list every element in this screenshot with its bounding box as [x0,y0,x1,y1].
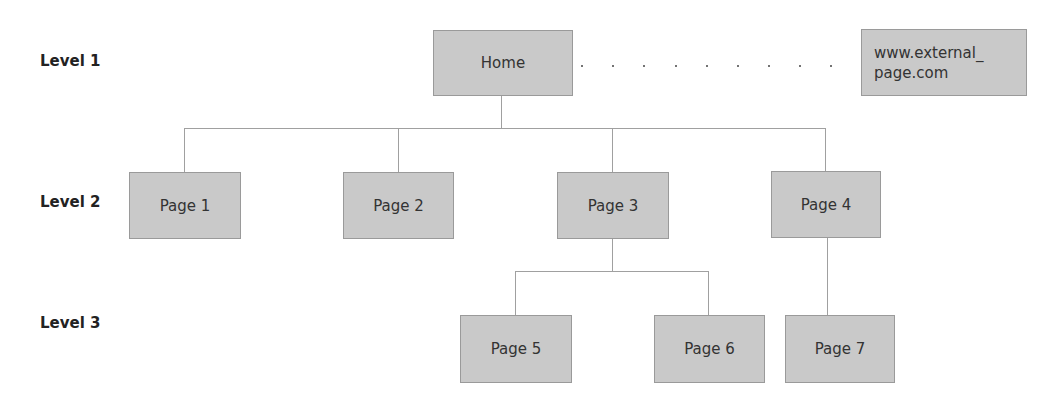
node-page-1-label: Page 1 [160,197,211,215]
connector-page4-up [825,128,826,172]
node-external-label-line1: www.external_ [874,43,983,63]
node-page-1[interactable]: Page 1 [129,172,241,239]
node-external-label-line2: page.com [874,63,983,83]
node-page-4[interactable]: Page 4 [771,171,881,238]
node-external-page[interactable]: www.external_ page.com [861,29,1027,96]
node-home[interactable]: Home [433,30,573,96]
connector-page5-up [515,271,516,315]
node-page-2-label: Page 2 [373,197,424,215]
connector-page4-down [827,238,828,315]
level-2-label: Level 2 [40,193,100,211]
node-page-3-label: Page 3 [588,197,639,215]
node-page-7[interactable]: Page 7 [785,315,895,383]
connector-page2-up [398,128,399,172]
node-page-7-label: Page 7 [815,340,866,358]
connector-page1-up [184,128,185,172]
connector-level2-horizontal [184,128,825,129]
connector-home-down [501,95,502,128]
node-page-5[interactable]: Page 5 [460,315,572,383]
connector-level3-horizontal [515,271,709,272]
connector-page6-up [708,271,709,315]
node-home-label: Home [481,54,525,72]
node-page-3[interactable]: Page 3 [557,172,669,239]
node-page-6[interactable]: Page 6 [654,315,765,383]
level-1-label: Level 1 [40,52,100,70]
level-3-label: Level 3 [40,314,100,332]
node-page-4-label: Page 4 [801,196,852,214]
node-page-2[interactable]: Page 2 [343,172,454,239]
node-page-5-label: Page 5 [491,340,542,358]
node-page-6-label: Page 6 [684,340,735,358]
connector-page3-down [612,238,613,271]
connector-page3-up [612,128,613,172]
